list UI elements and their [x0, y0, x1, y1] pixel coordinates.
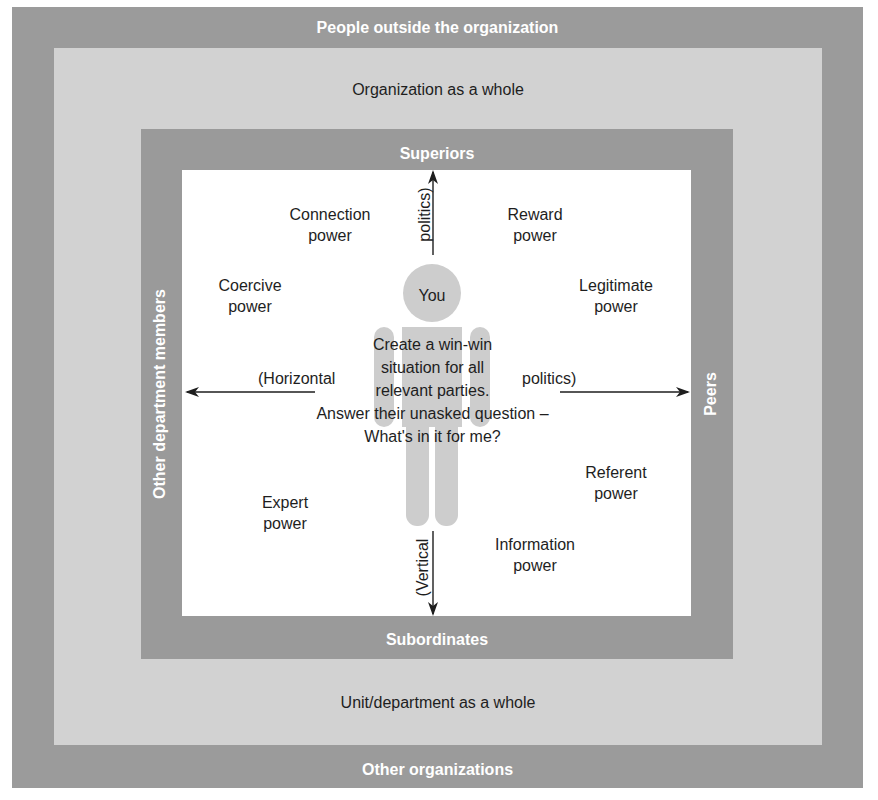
message-line-5: What's in it for me?	[280, 425, 585, 448]
reward-power-line1: Reward	[475, 204, 595, 225]
legitimate-power: Legitimate power	[556, 275, 676, 317]
information-power-line2: power	[465, 555, 605, 576]
expert-power: Expert power	[225, 492, 345, 534]
reward-power-line2: power	[475, 225, 595, 246]
coercive-power-line2: power	[190, 296, 310, 317]
expert-power-line1: Expert	[225, 492, 345, 513]
referent-power-line1: Referent	[556, 462, 676, 483]
message-line-2: situation for all	[280, 356, 585, 379]
center-message: Create a win-win situation for all relev…	[280, 333, 585, 448]
referent-power-line2: power	[556, 483, 676, 504]
reward-power: Reward power	[475, 204, 595, 246]
information-power-line1: Information	[465, 534, 605, 555]
information-power: Information power	[465, 534, 605, 576]
connection-power-line2: power	[270, 225, 390, 246]
connection-power-line1: Connection	[270, 204, 390, 225]
coercive-power-line1: Coercive	[190, 275, 310, 296]
label-vertical: (Vertical	[412, 528, 433, 608]
message-line-1: Create a win-win	[280, 333, 585, 356]
message-line-3: relevant parties.	[280, 379, 585, 402]
expert-power-line2: power	[225, 513, 345, 534]
connection-power: Connection power	[270, 204, 390, 246]
coercive-power: Coercive power	[190, 275, 310, 317]
referent-power: Referent power	[556, 462, 676, 504]
legitimate-power-line2: power	[556, 296, 676, 317]
message-line-4: Answer their unasked question –	[280, 402, 585, 425]
legitimate-power-line1: Legitimate	[556, 275, 676, 296]
label-vertical-politics: politics)	[414, 175, 435, 255]
